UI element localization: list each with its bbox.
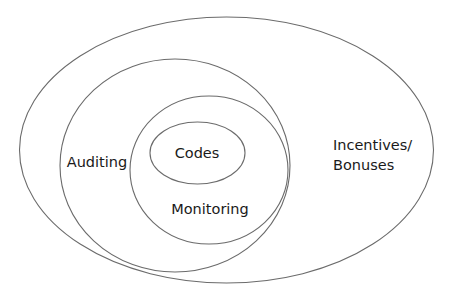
monitoring-label: Monitoring bbox=[171, 201, 249, 217]
codes-label: Codes bbox=[175, 145, 220, 161]
nested-layers-diagram: Codes Auditing Monitoring Incentives/ Bo… bbox=[0, 0, 452, 298]
incentives-label-line1: Incentives/ bbox=[333, 137, 412, 153]
incentives-label-line2: Bonuses bbox=[333, 157, 394, 173]
monitoring-ellipse bbox=[130, 96, 288, 244]
auditing-label: Auditing bbox=[67, 154, 127, 170]
